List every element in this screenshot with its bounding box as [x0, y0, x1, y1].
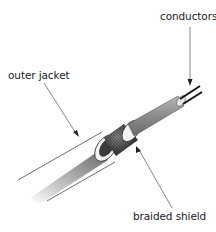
jacket-arrowhead [73, 130, 79, 137]
conductors-label: conductors [160, 10, 216, 22]
shield-leader [138, 148, 172, 208]
cable-illustration [0, 0, 216, 232]
outer-jacket-label: outer jacket [8, 69, 70, 81]
cable-diagram: conductors outer jacket braided shield [0, 0, 216, 232]
conductors-arrowhead [188, 79, 193, 86]
jacket-leader [44, 83, 77, 135]
braided-shield-label: braided shield [133, 210, 206, 222]
inner-insulation [128, 94, 187, 136]
